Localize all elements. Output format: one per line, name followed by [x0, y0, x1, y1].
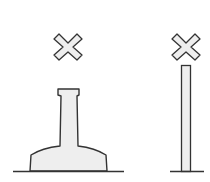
left-cross-icon — [54, 34, 82, 60]
right-cross-icon — [172, 34, 200, 60]
diagram-svg — [0, 0, 210, 182]
diagram-canvas — [0, 0, 210, 182]
right-pole — [182, 66, 191, 172]
left-pedestal — [30, 89, 107, 171]
